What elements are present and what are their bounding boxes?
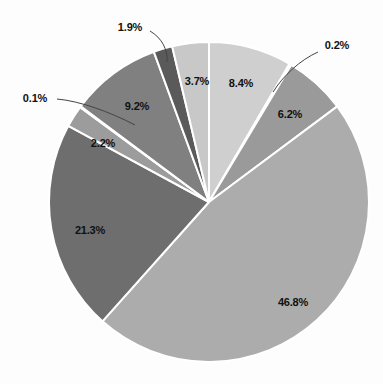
pie-chart-figure: 8.4%0.2%6.2%46.8%21.3%2.2%0.1%9.2%1.9%3.…	[0, 0, 383, 384]
pie-slice-label: 21.3%	[75, 225, 105, 236]
pie-slice-label: 0.1%	[23, 93, 47, 104]
pie-slices-group	[49, 42, 369, 362]
pie-slice-label: 0.2%	[325, 40, 349, 51]
pie-slice-label: 1.9%	[118, 22, 142, 33]
pie-slice-label: 3.7%	[185, 76, 209, 87]
pie-chart-svg	[0, 0, 383, 384]
pie-slice-label: 46.8%	[278, 297, 308, 308]
pie-slice-label: 9.2%	[125, 101, 149, 112]
pie-slice-label: 6.2%	[278, 109, 302, 120]
pie-slice-label: 2.2%	[91, 138, 115, 149]
pie-slice-label: 8.4%	[229, 78, 253, 89]
